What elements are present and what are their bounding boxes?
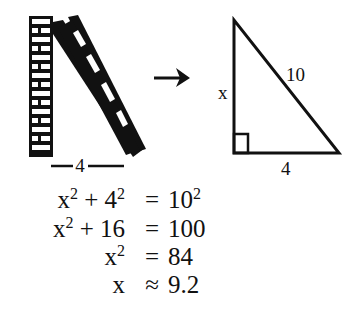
hypotenuse-label: 10 xyxy=(286,64,305,85)
equation-rhs: 9.2 xyxy=(168,272,199,298)
right-arrow-icon xyxy=(154,68,190,87)
equation-line-4: x ≈ 9.2 xyxy=(0,272,351,298)
vertical-side-label: x xyxy=(218,82,228,103)
equation-lhs: x2 + 16 xyxy=(53,216,125,245)
equation-rhs: 84 xyxy=(168,244,193,270)
base-distance-marker: 4 xyxy=(51,155,124,176)
brick-wall xyxy=(29,16,53,157)
equation-lhs: x2 + 42 xyxy=(57,187,125,216)
right-triangle: x 10 4 xyxy=(218,20,339,179)
equation-line-1: x2 + 42 = 102 xyxy=(0,187,351,213)
equation-operator: = xyxy=(142,244,162,270)
equation-lhs: x2 xyxy=(105,244,126,273)
equation-rhs: 102 xyxy=(168,187,201,216)
equation-line-2: x2 + 16 = 100 xyxy=(0,216,351,242)
equation-rhs: 100 xyxy=(168,216,206,242)
equation-operator: ≈ xyxy=(142,272,162,298)
equation-operator: = xyxy=(142,187,162,213)
equation-lhs: x xyxy=(113,272,126,298)
base-distance-label: 4 xyxy=(75,155,85,176)
ladder xyxy=(53,15,146,157)
equation-line-3: x2 = 84 xyxy=(0,244,351,270)
right-angle-marker xyxy=(234,134,248,153)
equation-operator: = xyxy=(142,216,162,242)
base-label: 4 xyxy=(281,158,291,179)
